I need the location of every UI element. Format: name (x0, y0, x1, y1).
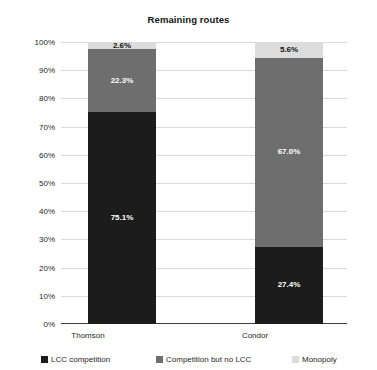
x-axis-tick-label-thomson: Thomson (33, 331, 143, 340)
bar-segment-lcc-competition[interactable]: 27.4% (255, 247, 323, 324)
legend-swatch-icon (41, 356, 48, 363)
bar-segment-value: 67.0% (278, 148, 301, 156)
bar-segment-monopoly[interactable]: 5.6% (255, 42, 323, 58)
legend-item-label: Competition but no LCC (166, 355, 251, 364)
bar-segment-competition-no-lcc[interactable]: 67.0% (255, 58, 323, 247)
legend-item-monopoly[interactable]: Monopoly (292, 352, 337, 366)
legend-item-label: LCC competition (51, 355, 110, 364)
stacked-bar-chart: Remaining routes 100% 90% 80% 70% 60% 50… (0, 0, 377, 370)
bar-segment-value: 5.6% (280, 46, 298, 54)
legend-swatch-icon (292, 356, 299, 363)
x-axis-tick-label-condor: Condor (200, 331, 310, 340)
y-axis-tick-label: 10% (9, 291, 55, 300)
y-axis-tick-label: 60% (9, 150, 55, 159)
bar-segment-value: 75.1% (111, 214, 134, 222)
legend-item-label: Monopoly (302, 355, 337, 364)
bar-segment-lcc-competition[interactable]: 75.1% (88, 112, 156, 324)
bar-condor[interactable]: 5.6% 67.0% 27.4% (255, 42, 323, 324)
y-axis-tick-label: 20% (9, 263, 55, 272)
y-axis-tick-label: 0% (9, 320, 55, 329)
bar-segment-value: 22.3% (111, 77, 134, 85)
y-axis-tick-label: 70% (9, 122, 55, 131)
legend-swatch-icon (156, 356, 163, 363)
y-axis-tick-label: 80% (9, 94, 55, 103)
bar-thomson[interactable]: 2.6% 22.3% 75.1% (88, 42, 156, 324)
bar-segment-monopoly[interactable]: 2.6% (88, 42, 156, 49)
legend-item-competition-no-lcc[interactable]: Competition but no LCC (156, 352, 251, 366)
bar-segment-competition-no-lcc[interactable]: 22.3% (88, 49, 156, 112)
y-axis-tick-label: 30% (9, 235, 55, 244)
chart-legend: LCC competition Competition but no LCC M… (0, 352, 377, 366)
bar-segment-value: 27.4% (278, 281, 301, 289)
chart-title: Remaining routes (0, 14, 377, 25)
y-axis-tick-label: 40% (9, 207, 55, 216)
legend-item-lcc-competition[interactable]: LCC competition (41, 352, 110, 366)
y-axis-tick-label: 100% (9, 38, 55, 47)
y-axis-tick-label: 90% (9, 66, 55, 75)
plot-area: 2.6% 22.3% 75.1% 5.6% 67.0% 27.4% (61, 42, 347, 324)
y-axis-tick-label: 50% (9, 179, 55, 188)
